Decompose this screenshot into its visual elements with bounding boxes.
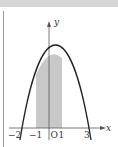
- x-axis-label: x: [106, 123, 111, 133]
- tick-label-neg2: −2: [8, 130, 21, 140]
- origin-label: O: [51, 130, 58, 140]
- y-axis-label: y: [53, 17, 60, 27]
- tick-label-1: 1: [59, 130, 65, 140]
- y-axis-arrow-icon: [47, 21, 51, 27]
- parabola-diagram: y x −2 −1 O 1 3: [0, 0, 118, 147]
- tick-label-neg1: −1: [29, 130, 42, 140]
- tick-label-3: 3: [84, 130, 90, 140]
